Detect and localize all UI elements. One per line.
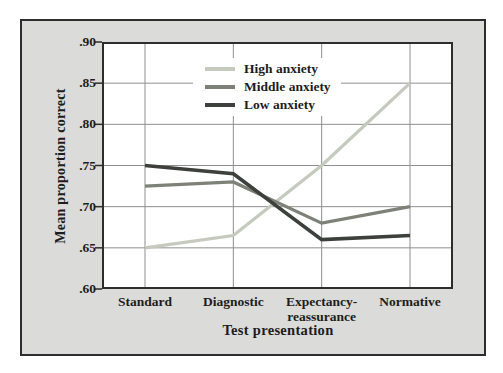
legend-swatch-high-anxiety — [205, 67, 235, 71]
legend-swatch-middle-anxiety — [205, 85, 235, 89]
y-tick-label: .65 — [56, 239, 96, 257]
y-tick-label: .80 — [56, 115, 96, 133]
legend-label: Low anxiety — [244, 97, 315, 113]
legend-label: High anxiety — [244, 61, 318, 77]
figure: Mean proportion correct Test presentatio… — [0, 0, 503, 373]
legend: High anxiety Middle anxiety Low anxiety — [193, 58, 341, 116]
legend-item-low-anxiety: Low anxiety — [205, 96, 341, 114]
y-tick-label: .70 — [56, 198, 96, 216]
legend-swatch-low-anxiety — [205, 103, 235, 107]
y-tick-label: .90 — [56, 33, 96, 51]
y-tick-label: .75 — [56, 157, 96, 175]
legend-item-high-anxiety: High anxiety — [205, 60, 341, 78]
y-tick-label: .85 — [56, 74, 96, 92]
legend-label: Middle anxiety — [244, 79, 331, 95]
x-category-label: Normative — [354, 294, 466, 309]
x-axis-title: Test presentation — [178, 322, 378, 339]
legend-item-middle-anxiety: Middle anxiety — [205, 78, 341, 96]
